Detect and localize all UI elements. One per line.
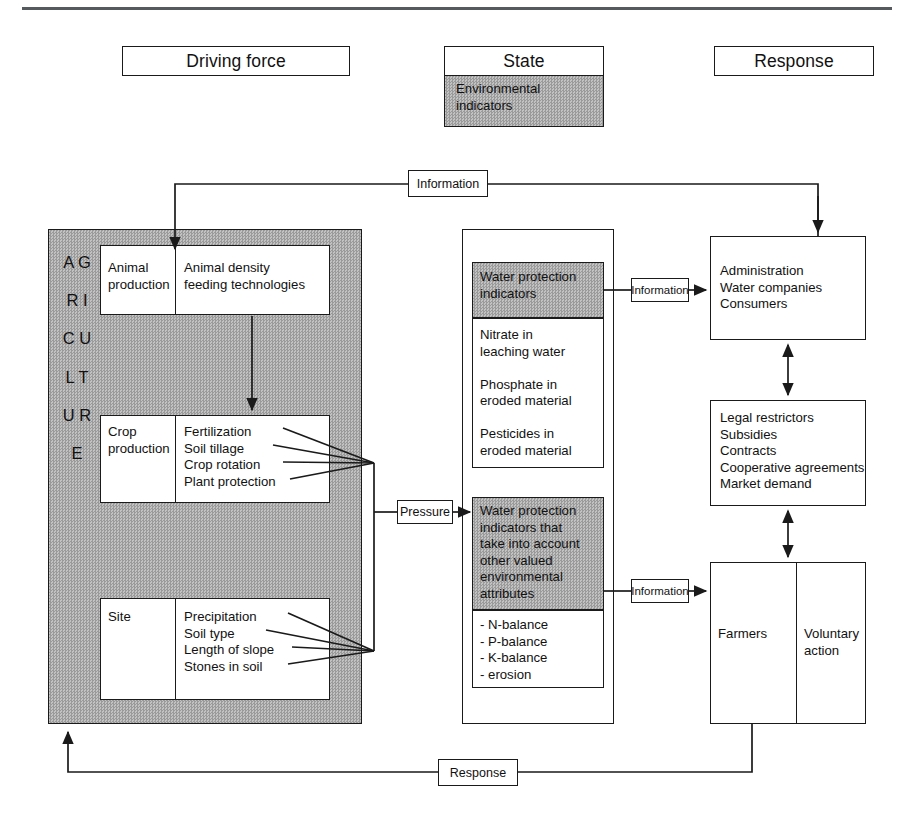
voluntary-action-label: Voluntary action (804, 626, 876, 659)
header-driving-force-label: Driving force (186, 51, 286, 72)
information-lower-label: Information (631, 579, 689, 603)
top-horizontal-rule (22, 7, 892, 10)
extended-indicators-body-label: - N-balance - P-balance - K-balance - er… (480, 617, 606, 683)
information-top-text: Information (417, 177, 480, 191)
farmers-label: Farmers (718, 626, 796, 643)
state-environmental-indicators-label: Environmental indicators (456, 81, 596, 114)
animal-density-label: Animal density feeding technologies (184, 260, 334, 293)
instruments-label: Legal restrictors Subsidies Contracts Co… (720, 410, 872, 493)
response-bottom-text: Response (450, 766, 506, 780)
pressure-text: Pressure (400, 505, 450, 519)
response-right-segment (517, 724, 752, 772)
extended-indicators-header-label: Water protection indicators that take in… (480, 503, 606, 602)
information-upper-text: Information (631, 284, 689, 296)
header-state: State (444, 46, 604, 76)
information-upper-label: Information (631, 278, 689, 302)
information-lower-text: Information (631, 585, 689, 597)
water-protection-indicators-header-label: Water protection indicators (480, 269, 604, 302)
agriculture-vertical-label: A G R I C U L T U R E (62, 243, 92, 472)
header-response: Response (714, 46, 874, 76)
actors-label: Administration Water companies Consumers (720, 263, 870, 313)
header-response-label: Response (754, 51, 834, 72)
crop-inputs-list: Fertilization Soil tillage Crop rotation… (184, 424, 336, 490)
response-left-segment (68, 732, 439, 772)
water-protection-indicators-body-label: Nitrate in leaching water Phosphate in e… (480, 327, 606, 459)
animal-production-label: Animal production (108, 260, 176, 293)
header-state-label: State (503, 51, 544, 72)
information-top-label: Information (408, 170, 488, 197)
header-driving-force: Driving force (122, 46, 350, 76)
response-bottom-label: Response (438, 759, 518, 786)
crop-production-label: Crop production (108, 424, 176, 457)
farmers-divider (796, 562, 797, 724)
pressure-label: Pressure (397, 500, 453, 524)
diagram-canvas: Driving force State Environmental indica… (0, 0, 914, 824)
site-attributes-list: Precipitation Soil type Length of slope … (184, 609, 336, 675)
site-label: Site (108, 609, 176, 626)
